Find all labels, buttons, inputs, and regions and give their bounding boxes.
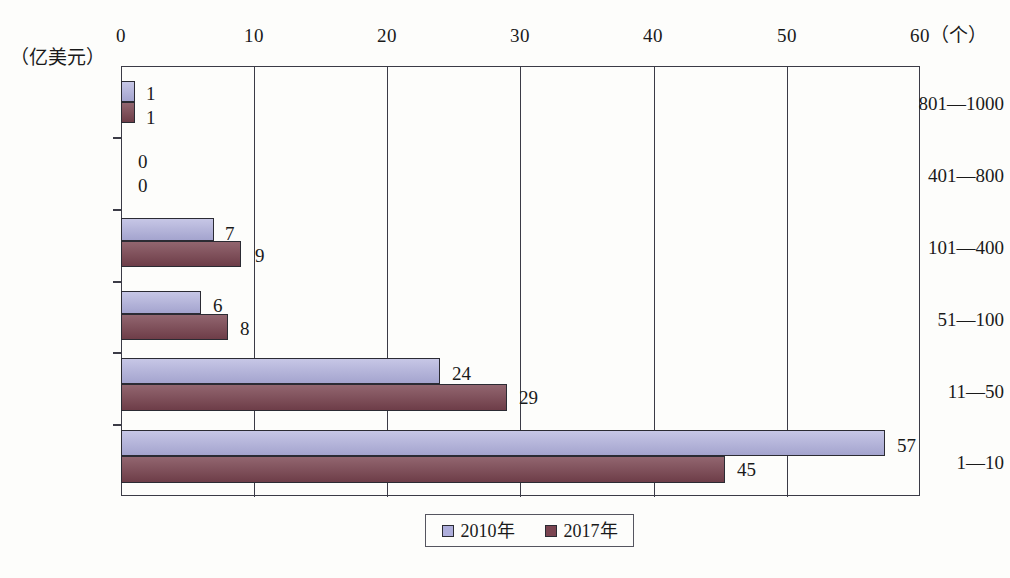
x-tick-label-50: 50 <box>757 26 817 45</box>
legend-swatch-icon-2010 <box>442 525 454 537</box>
x-tick-label-20: 20 <box>357 26 417 45</box>
y-tick-mark-5 <box>113 424 122 426</box>
x-tick-label-10: 10 <box>224 26 284 45</box>
y-axis-unit-label: （亿美元） <box>10 48 105 67</box>
bar-value-2010-401-800: 0 <box>138 152 148 171</box>
bar-value-2010-801-1000: 1 <box>146 84 156 103</box>
bar-value-2010-1-10: 57 <box>897 436 916 455</box>
bar-value-2010-11-50: 24 <box>452 364 471 383</box>
y-tick-mark-3 <box>113 281 122 283</box>
bar-2017-1-10 <box>121 456 725 483</box>
x-tick-label-0: 0 <box>91 26 151 45</box>
bar-2017-11-50 <box>121 384 507 411</box>
bar-2010-101-400 <box>121 218 214 241</box>
bar-2010-11-50 <box>121 358 440 384</box>
bar-value-2010-51-100: 6 <box>213 296 223 315</box>
bar-value-2017-51-100: 8 <box>240 319 250 338</box>
bar-value-2017-1-10: 45 <box>737 460 756 479</box>
y-tick-mark-4 <box>113 352 122 354</box>
legend-label-2010: 2010年 <box>461 522 515 540</box>
legend-label-2017: 2017年 <box>564 522 618 540</box>
x-axis-unit-label: （个） <box>930 26 987 45</box>
bar-value-2010-101-400: 7 <box>225 224 235 243</box>
x-tick-label-40: 40 <box>623 26 683 45</box>
y-tick-label-801-1000: 801—1000 <box>889 94 1010 113</box>
bar-2010-51-100 <box>121 291 201 314</box>
legend-item-2010: 2010年 <box>442 522 515 540</box>
bar-2017-51-100 <box>121 314 228 340</box>
legend-item-2017: 2017年 <box>545 522 618 540</box>
chart-legend: 2010年 2017年 <box>425 514 634 547</box>
bar-value-2017-401-800: 0 <box>138 176 148 195</box>
y-tick-label-101-400: 101—400 <box>889 238 1010 257</box>
y-tick-label-51-100: 51—100 <box>889 310 1010 329</box>
x-tick-label-30: 30 <box>490 26 550 45</box>
y-tick-label-401-800: 401—800 <box>889 166 1010 185</box>
y-tick-label-11-50: 11—50 <box>889 382 1010 401</box>
bar-2010-1-10 <box>121 430 885 456</box>
bar-2017-801-1000 <box>121 102 135 123</box>
bar-value-2017-801-1000: 1 <box>146 108 156 127</box>
bar-value-2017-11-50: 29 <box>519 388 538 407</box>
bar-chart: （亿美元） 0 10 20 30 40 50 60 （个） 801—1000 4… <box>0 0 1010 578</box>
bar-value-2017-101-400: 9 <box>255 246 265 265</box>
y-tick-mark-2 <box>113 209 122 211</box>
y-tick-mark-1 <box>113 137 122 139</box>
legend-swatch-icon-2017 <box>545 525 557 537</box>
bar-2017-101-400 <box>121 241 241 267</box>
bar-2010-801-1000 <box>121 81 135 102</box>
